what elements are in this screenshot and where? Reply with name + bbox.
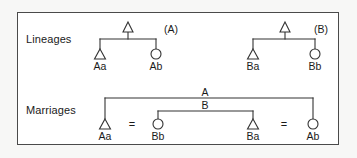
node-label-aa-lineage: Aa [94, 60, 107, 72]
marriage-equals-right: = [281, 118, 287, 130]
lineage-tag-b: (B) [314, 23, 328, 35]
symbol-male-ba-lineage [248, 49, 259, 59]
row-label-marriages: Marriages [26, 104, 76, 116]
node-label-ba-marriage: Ba [247, 130, 260, 142]
symbol-female-ab-lineage [151, 49, 161, 59]
diagram-lines [0, 0, 357, 158]
row-label-lineages: Lineages [26, 33, 71, 45]
node-label-bb-lineage: Bb [309, 60, 322, 72]
symbol-male-apex-a [123, 22, 133, 32]
lineage-tag-a: (A) [164, 23, 178, 35]
node-label-aa-marriage: Aa [99, 130, 112, 142]
node-label-bb-marriage: Bb [152, 130, 165, 142]
symbol-female-bb-marriage [153, 119, 163, 129]
figure-canvas: Lineages Marriages (A) (B) Aa Ab Ba Bb A… [0, 0, 357, 158]
node-label-ba-lineage: Ba [247, 60, 260, 72]
symbol-male-aa-marriage [100, 119, 111, 129]
marriage-bracket-tag-a: A [201, 86, 208, 98]
node-label-ab-marriage: Ab [307, 130, 320, 142]
node-label-ab-lineage: Ab [150, 60, 163, 72]
symbol-male-aa-lineage [95, 49, 106, 59]
marriage-equals-left: = [129, 118, 135, 130]
marriage-bracket-tag-b: B [201, 99, 208, 111]
symbol-male-ba-marriage [248, 119, 259, 129]
symbol-female-bb-lineage [310, 49, 320, 59]
symbol-male-apex-b [280, 22, 290, 32]
symbol-female-ab-marriage [308, 119, 318, 129]
